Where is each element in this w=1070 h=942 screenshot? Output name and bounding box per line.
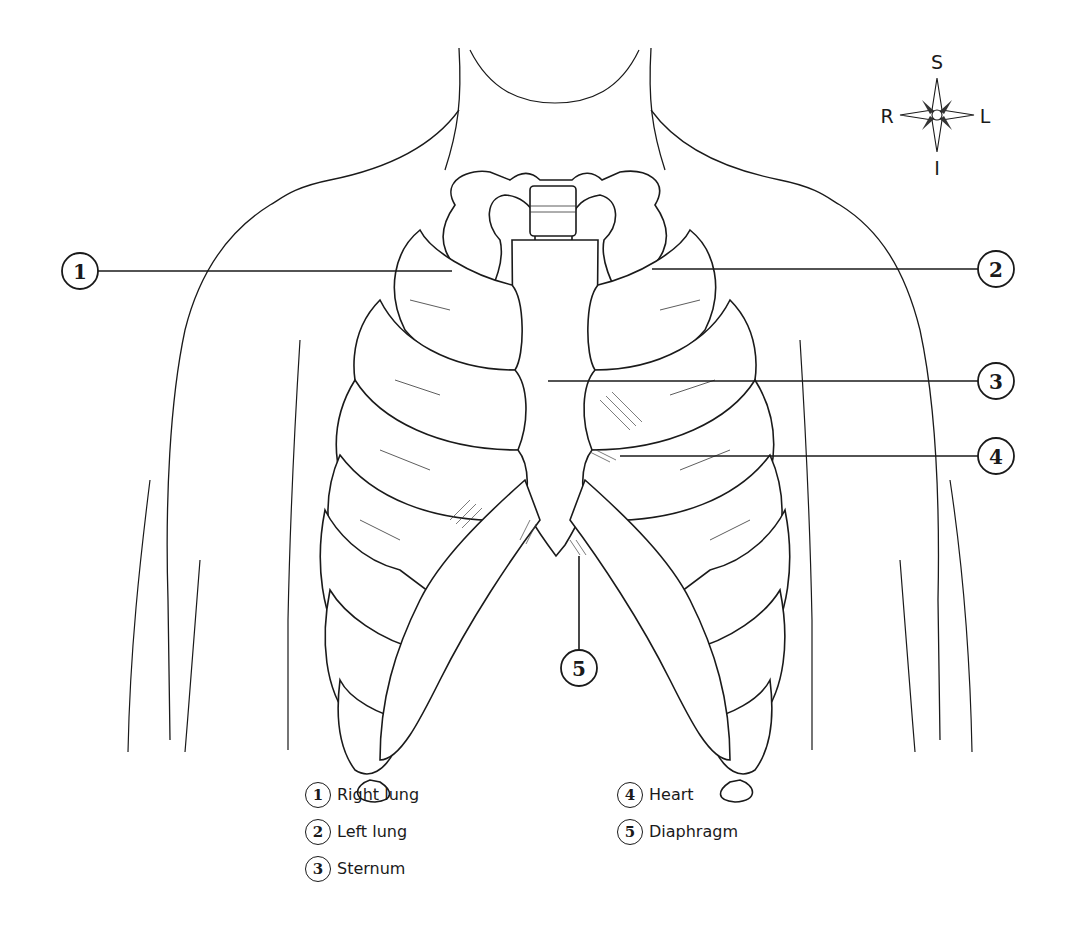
callout-5: 5 xyxy=(561,650,597,686)
callout-3-number: 3 xyxy=(989,370,1003,394)
legend-item: 3 Sternum xyxy=(305,850,555,887)
compass-inferior-label: I xyxy=(934,157,940,179)
compass-superior-label: S xyxy=(931,51,943,73)
legend-number-badge: 4 xyxy=(617,782,643,808)
compass-rose: S I R L xyxy=(880,51,990,179)
callout-1: 1 xyxy=(62,253,98,289)
legend-label: Sternum xyxy=(337,859,405,878)
legend-column-2: 4 Heart 5 Diaphragm xyxy=(617,776,867,850)
legend-column-1: 1 Right lung 2 Left lung 3 Sternum xyxy=(305,776,555,887)
callout-3: 3 xyxy=(978,363,1014,399)
callout-2-number: 2 xyxy=(989,258,1003,282)
legend-item: 5 Diaphragm xyxy=(617,813,867,850)
ribs-right xyxy=(320,230,540,802)
compass-star-icon xyxy=(900,78,974,152)
compass-left-label: L xyxy=(980,105,991,127)
legend-number-badge: 5 xyxy=(617,819,643,845)
callout-2: 2 xyxy=(978,251,1014,287)
legend-label: Heart xyxy=(649,785,694,804)
legend-number-badge: 2 xyxy=(305,819,331,845)
callout-5-number: 5 xyxy=(572,657,586,681)
legend-number-badge: 1 xyxy=(305,782,331,808)
legend-item: 2 Left lung xyxy=(305,813,555,850)
legend-number-badge: 3 xyxy=(305,856,331,882)
ribs-left xyxy=(570,230,790,802)
callout-4-number: 4 xyxy=(989,445,1003,469)
callout-4: 4 xyxy=(978,438,1014,474)
compass-right-label: R xyxy=(880,105,893,127)
legend-label: Right lung xyxy=(337,785,419,804)
legend-item: 4 Heart xyxy=(617,776,867,813)
legend-label: Left lung xyxy=(337,822,407,841)
legend-item: 1 Right lung xyxy=(305,776,555,813)
callout-1-number: 1 xyxy=(73,260,87,284)
legend-label: Diaphragm xyxy=(649,822,738,841)
